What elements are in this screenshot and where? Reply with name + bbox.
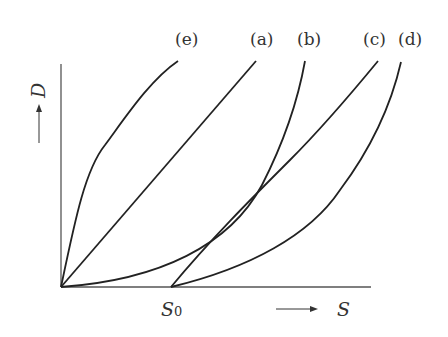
- y-arrowhead-icon: [36, 104, 42, 112]
- y-axis-label: D: [27, 83, 49, 99]
- label-a: (a): [250, 29, 273, 49]
- x-axis-label: S: [337, 298, 350, 320]
- label-d: (d): [398, 29, 422, 49]
- curve-e: [61, 61, 178, 287]
- curve-b: [61, 61, 305, 287]
- label-e: (e): [175, 29, 198, 49]
- curve-c: [171, 61, 378, 287]
- diagram: (e) (a) (b) (c) (d) D S S0: [0, 0, 448, 337]
- s0-label: S0: [161, 298, 182, 320]
- label-b: (b): [297, 29, 321, 49]
- label-c: (c): [363, 29, 386, 49]
- curve-d: [171, 62, 401, 287]
- x-arrowhead-icon: [310, 306, 318, 312]
